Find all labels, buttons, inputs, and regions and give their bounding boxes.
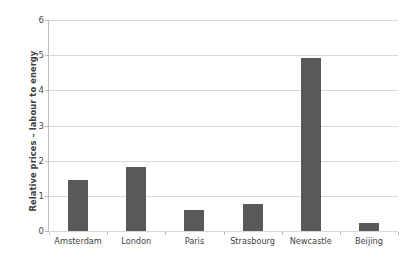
x-axis-tick-label: Amsterdam — [54, 236, 102, 246]
x-axis-tick-label: London — [121, 236, 151, 246]
x-axis-tick-mark — [165, 232, 166, 235]
x-axis-tick-label: Beijing — [355, 236, 383, 246]
bar — [126, 167, 146, 231]
x-axis-tick-mark — [282, 232, 283, 235]
gridline — [49, 55, 398, 56]
x-axis-tick-label: Newcastle — [290, 236, 332, 246]
y-axis-tick-label: 1 — [4, 191, 44, 201]
gridline — [49, 161, 398, 162]
x-axis-tick-label: Strasbourg — [230, 236, 275, 246]
y-axis-tick-label: 5 — [4, 50, 44, 60]
bar — [68, 180, 88, 231]
plot-area — [49, 20, 398, 231]
y-axis-tick-label: 6 — [4, 15, 44, 25]
gridline — [49, 126, 398, 127]
x-axis-tick-mark — [340, 232, 341, 235]
gridline — [49, 20, 398, 21]
bar — [301, 58, 321, 231]
x-axis-tick-mark — [49, 232, 50, 235]
x-axis-tick-mark — [398, 232, 399, 235]
gridline — [49, 196, 398, 197]
bar — [243, 204, 263, 231]
y-axis-tick-label: 2 — [4, 156, 44, 166]
x-axis-tick-label: Paris — [185, 236, 205, 246]
x-axis-tick-mark — [107, 232, 108, 235]
gridline — [49, 90, 398, 91]
bar — [359, 223, 379, 231]
y-axis-tick-label: 0 — [4, 226, 44, 236]
y-axis-tick-label: 4 — [4, 85, 44, 95]
bar — [184, 210, 204, 231]
x-axis-tick-mark — [224, 232, 225, 235]
y-axis-tick-labels: 0123456 — [0, 0, 44, 262]
bar-chart: Relative prices – labour to energy 01234… — [0, 0, 411, 262]
y-axis-tick-label: 3 — [4, 121, 44, 131]
